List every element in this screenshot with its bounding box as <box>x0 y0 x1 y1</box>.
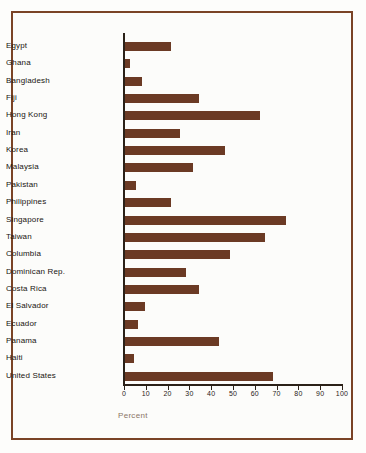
bar <box>125 59 130 68</box>
bar-chart-plot: 0102030405060708090100 EgyptGhanaBanglad… <box>0 0 366 453</box>
x-tick-label-30: 30 <box>177 390 201 397</box>
category-label: Pakistan <box>6 180 116 189</box>
bar <box>125 233 265 242</box>
bar <box>125 163 193 172</box>
category-label: Costa Rica <box>6 284 116 293</box>
bar <box>125 216 286 225</box>
bar-row: Ghana <box>0 56 366 73</box>
category-label: Panama <box>6 336 116 345</box>
x-axis-title: Percent <box>118 411 148 420</box>
bar-row: United States <box>0 369 366 386</box>
bar-row: Haiti <box>0 351 366 368</box>
bar <box>125 372 273 381</box>
bar <box>125 42 171 51</box>
x-tick-label-40: 40 <box>199 390 223 397</box>
bar-row: El Salvador <box>0 299 366 316</box>
bar <box>125 268 186 277</box>
bar <box>125 320 138 329</box>
bar-row: Bangladesh <box>0 74 366 91</box>
x-tick-label-20: 20 <box>156 390 180 397</box>
category-label: Fiji <box>6 93 116 102</box>
bar-row: Philippines <box>0 195 366 212</box>
bar-row: Egypt <box>0 39 366 56</box>
bar <box>125 198 171 207</box>
x-tick-label-10: 10 <box>134 390 158 397</box>
category-label: Egypt <box>6 41 116 50</box>
category-label: Bangladesh <box>6 76 116 85</box>
bar <box>125 302 145 311</box>
bar-row: Ecuador <box>0 317 366 334</box>
bar-row: Fiji <box>0 91 366 108</box>
bar <box>125 250 230 259</box>
category-label: Taiwan <box>6 232 116 241</box>
category-label: Iran <box>6 128 116 137</box>
category-label: Ecuador <box>6 319 116 328</box>
x-tick-label-60: 60 <box>243 390 267 397</box>
bar <box>125 354 134 363</box>
category-label: Ghana <box>6 58 116 67</box>
bar-row: Dominican Rep. <box>0 265 366 282</box>
bar <box>125 337 219 346</box>
category-label: Columbia <box>6 249 116 258</box>
x-tick-label-0: 0 <box>112 390 136 397</box>
bar-row: Costa Rica <box>0 282 366 299</box>
bar <box>125 94 199 103</box>
bar <box>125 129 180 138</box>
bar-row: Taiwan <box>0 230 366 247</box>
bar <box>125 285 199 294</box>
x-tick-label-90: 90 <box>308 390 332 397</box>
bar-row: Singapore <box>0 213 366 230</box>
x-tick-label-80: 80 <box>286 390 310 397</box>
bar-row: Korea <box>0 143 366 160</box>
category-label: Hong Kong <box>6 110 116 119</box>
category-label: United States <box>6 371 116 380</box>
bar <box>125 181 136 190</box>
bar <box>125 77 142 86</box>
bar-row: Columbia <box>0 247 366 264</box>
bar <box>125 111 260 120</box>
category-label: El Salvador <box>6 301 116 310</box>
category-label: Korea <box>6 145 116 154</box>
bar-row: Panama <box>0 334 366 351</box>
category-label: Philippines <box>6 197 116 206</box>
bar-row: Iran <box>0 126 366 143</box>
category-label: Singapore <box>6 215 116 224</box>
bar-row: Pakistan <box>0 178 366 195</box>
x-tick-label-70: 70 <box>265 390 289 397</box>
x-tick-label-100: 100 <box>330 390 354 397</box>
x-tick-label-50: 50 <box>221 390 245 397</box>
figure: 0102030405060708090100 EgyptGhanaBanglad… <box>0 0 366 453</box>
category-label: Haiti <box>6 353 116 362</box>
category-label: Malaysia <box>6 162 116 171</box>
bar <box>125 146 225 155</box>
category-label: Dominican Rep. <box>6 267 116 276</box>
bar-row: Hong Kong <box>0 108 366 125</box>
bar-row: Malaysia <box>0 160 366 177</box>
